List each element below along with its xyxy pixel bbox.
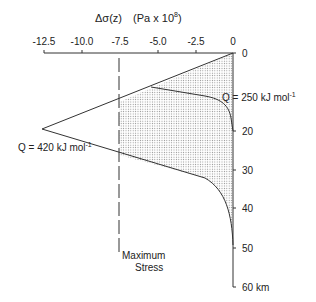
svg-text:-2.5: -2.5 [187, 36, 205, 47]
svg-text:20: 20 [242, 126, 254, 137]
svg-text:0: 0 [242, 48, 248, 59]
q420-label: Q = 420 kJ mol-1 [18, 141, 92, 153]
svg-text:-10.0: -10.0 [71, 36, 94, 47]
x-tick-labels: -12.5 -10.0 -7.5 -5.0 -2.5 0 [33, 36, 237, 47]
y-axis [233, 53, 236, 287]
x-axis [44, 50, 236, 53]
svg-text:-7.5: -7.5 [111, 36, 129, 47]
svg-text:50: 50 [242, 243, 254, 254]
q250-label: Q = 250 kJ mol-1 [222, 91, 296, 103]
stress-depth-chart: Δσ(z) (Pa x 108) -12.5 -10.0 -7.5 -5.0 -… [0, 0, 316, 302]
figure: Δσ(z) (Pa x 108) -12.5 -10.0 -7.5 -5.0 -… [0, 0, 316, 302]
svg-text:0: 0 [230, 36, 236, 47]
x-axis-label: Δσ(z) (Pa x 108) [95, 11, 182, 24]
svg-text:-12.5: -12.5 [33, 36, 56, 47]
svg-text:30: 30 [242, 165, 254, 176]
maximum-stress-label-2: Stress [135, 262, 163, 273]
svg-text:60 km: 60 km [242, 282, 269, 293]
svg-text:40: 40 [242, 203, 254, 214]
svg-text:-5.0: -5.0 [149, 36, 167, 47]
y-tick-labels: 0 20 30 40 50 60 km [242, 48, 269, 293]
maximum-stress-label: Maximum [122, 250, 165, 261]
shaded-region [119, 53, 233, 245]
